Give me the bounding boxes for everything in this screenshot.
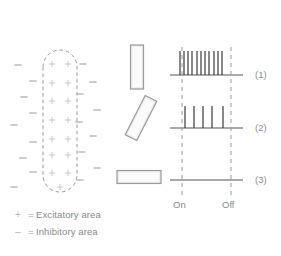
excitatory-mark [65, 61, 71, 67]
excitatory-mark [49, 152, 55, 158]
excitatory-mark [49, 170, 55, 176]
trace-label-2: (2) [255, 122, 267, 133]
stimulus-bar-vertical-inner [133, 47, 142, 87]
legend: + = Excitatory area – = Inhibitory area [10, 206, 180, 240]
excitatory-mark [65, 80, 71, 86]
excitatory-mark [57, 184, 63, 190]
legend-row-inhibitory: – = Inhibitory area [10, 223, 180, 240]
excitatory-mark [49, 80, 55, 86]
stimulus-bar-horizontal[interactable] [117, 171, 161, 184]
excitatory-mark [49, 136, 55, 142]
excitatory-mark [65, 98, 71, 104]
axis-label-on: On [173, 199, 186, 210]
axis-label-off: Off [222, 199, 235, 210]
minus-icon: – [10, 226, 26, 237]
stimulus-bar-vertical[interactable] [131, 45, 144, 89]
trace-label-3: (3) [255, 174, 267, 185]
legend-row-excitatory: + = Excitatory area [10, 206, 180, 223]
receptive-field-outline [43, 50, 77, 192]
excitatory-mark [65, 152, 71, 158]
trace-label-1: (1) [255, 69, 267, 80]
legend-label-inhibitory: Inhibitory area [36, 226, 98, 237]
excitatory-mark [49, 98, 55, 104]
excitatory-mark [49, 117, 55, 123]
excitatory-mark [49, 61, 55, 67]
stimulus-bar-horizontal-inner [119, 173, 159, 182]
legend-equals-inhibitory: = [26, 226, 36, 237]
excitatory-mark [65, 136, 71, 142]
stimulus-bar-oblique[interactable] [125, 95, 157, 140]
excitatory-mark [65, 117, 71, 123]
plus-icon: + [10, 209, 26, 220]
legend-equals-excitatory: = [26, 209, 36, 220]
excitatory-mark [65, 170, 71, 176]
legend-label-excitatory: Excitatory area [36, 209, 101, 220]
